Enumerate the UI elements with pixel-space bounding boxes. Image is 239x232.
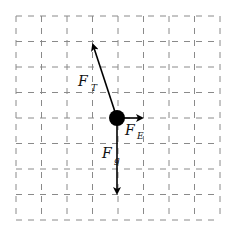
- force-subscript-tension: T: [91, 83, 98, 93]
- force-arrow-tension: [93, 45, 117, 118]
- force-label-tension: F: [77, 73, 89, 89]
- force-label-gravity: F: [101, 145, 113, 161]
- force-subscript-gravity: g: [114, 155, 120, 165]
- free-body-diagram: FTFEFg: [0, 0, 239, 232]
- force-subscript-electric: E: [136, 131, 144, 141]
- ball-body: [109, 110, 125, 126]
- force-label-electric: F: [124, 122, 136, 138]
